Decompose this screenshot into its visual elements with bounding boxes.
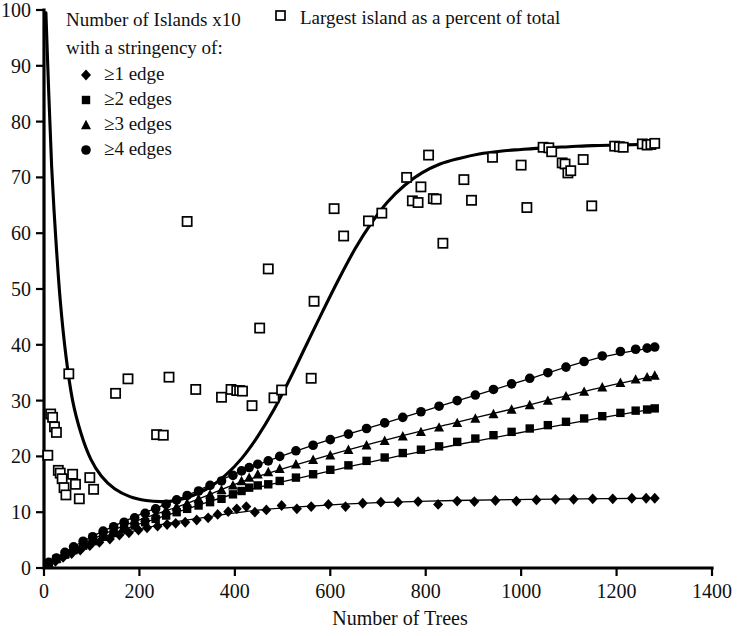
data-point (48, 413, 57, 422)
data-point (651, 404, 659, 412)
data-point (547, 147, 556, 156)
x-tick-label: 400 (220, 580, 250, 602)
data-point (416, 407, 426, 417)
data-point (194, 486, 204, 496)
data-point (277, 500, 287, 511)
data-point (88, 532, 98, 542)
data-point (650, 493, 660, 504)
data-point (275, 452, 285, 462)
data-point (292, 503, 302, 514)
data-point (130, 513, 140, 523)
data-point (192, 515, 202, 526)
data-point (229, 490, 237, 498)
data-point (309, 470, 317, 478)
data-point (522, 203, 531, 212)
data-point (453, 438, 461, 446)
x-tick-label: 0 (39, 580, 49, 602)
data-point (489, 385, 499, 395)
y-tick-label: 80 (11, 111, 31, 133)
data-point (650, 342, 660, 352)
data-point (579, 357, 589, 367)
data-point (434, 401, 444, 411)
data-point (98, 526, 108, 536)
data-point (109, 522, 119, 532)
data-point (616, 347, 626, 357)
y-tick-label: 30 (11, 390, 31, 412)
data-point (330, 204, 339, 213)
data-point (579, 155, 588, 164)
y-tick-label: 90 (11, 55, 31, 77)
data-point (58, 474, 67, 483)
data-point (470, 413, 480, 422)
data-point (254, 481, 262, 489)
data-point (253, 469, 263, 478)
data-point (292, 473, 300, 481)
data-point (631, 406, 639, 414)
data-point (424, 150, 433, 159)
legend-secondary-label: Largest island as a percent of total (300, 7, 560, 28)
data-point (307, 374, 316, 383)
data-point (619, 143, 628, 152)
legend-heading-line1: Number of Islands x10 (66, 9, 241, 30)
data-point (264, 480, 272, 488)
legend-entry-label: ≥3 edges (104, 113, 172, 134)
x-tick-label: 200 (124, 580, 154, 602)
y-tick-label: 100 (1, 0, 31, 21)
data-point (213, 509, 223, 520)
y-tick-label: 0 (21, 557, 31, 579)
data-point (323, 499, 333, 510)
data-point (291, 446, 301, 456)
data-point (171, 518, 181, 529)
data-point (362, 440, 372, 449)
y-tick-label: 40 (11, 334, 31, 356)
data-point (517, 161, 526, 170)
data-point (191, 385, 200, 394)
data-point (344, 429, 354, 439)
data-point (525, 373, 535, 383)
data-point (413, 198, 422, 207)
data-point (123, 374, 132, 383)
data-point (488, 153, 497, 162)
data-point (68, 470, 77, 479)
data-point (566, 166, 575, 175)
data-point (237, 487, 245, 495)
data-point (490, 495, 500, 506)
data-point (205, 481, 215, 491)
data-point (217, 485, 227, 494)
data-point (164, 373, 173, 382)
x-axis-tick-labels: 0200400600800100012001400 (39, 580, 732, 602)
data-point (161, 500, 171, 510)
data-point (413, 496, 423, 507)
data-point (435, 442, 443, 450)
data-point (417, 446, 425, 454)
data-point (380, 418, 390, 428)
data-point (306, 501, 316, 512)
data-point (43, 451, 52, 460)
data-point (362, 424, 372, 434)
data-point (180, 517, 190, 528)
data-point (244, 463, 254, 473)
chart-svg: 0102030405060708090100 02004006008001000… (0, 0, 739, 636)
data-point (182, 491, 192, 501)
data-point (488, 409, 498, 418)
x-tick-label: 600 (315, 580, 345, 602)
data-point (467, 196, 476, 205)
data-point (253, 459, 263, 469)
legend-entry-label: ≥1 edge (104, 63, 165, 84)
data-point (438, 239, 447, 248)
data-point (228, 480, 238, 489)
data-point (244, 472, 254, 481)
data-point (264, 264, 273, 273)
open-square-icon (276, 11, 285, 20)
data-point (452, 396, 462, 406)
data-point (69, 542, 79, 552)
data-point (60, 548, 70, 558)
data-point (358, 498, 368, 509)
data-point (377, 209, 386, 218)
data-point (507, 428, 515, 436)
data-point (641, 493, 651, 504)
data-point (250, 507, 260, 518)
edge3-fit (47, 375, 657, 564)
data-point (71, 480, 80, 489)
x-axis-title: Number of Trees (332, 607, 468, 629)
